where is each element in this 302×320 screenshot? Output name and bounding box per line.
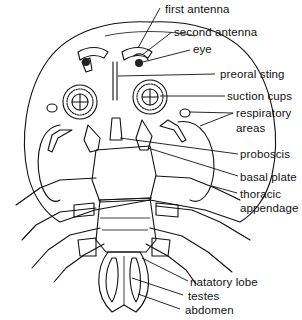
leader-proboscis [120,138,238,154]
respiratory-area-left-small [47,104,57,112]
first-antenna-right [122,48,152,61]
basal-plate [84,120,152,152]
label-natatory-lobe: natatory lobe [190,276,258,288]
label-proboscis: proboscis [240,148,290,160]
leader-respiratory-2 [200,113,233,126]
label-basal-plate: basal plate [240,171,297,183]
label-respiratory-areas-line2: areas [236,122,265,134]
preoral-sting [113,62,117,100]
label-eye: eye [193,43,212,55]
thorax [92,146,156,202]
leader-first-antenna [138,8,160,48]
specimen-drawing [0,0,302,320]
label-preoral-sting: preoral sting [220,68,285,80]
testes [106,258,141,302]
respiratory-area-large [178,122,214,202]
leader-preoral-sting [118,74,215,76]
leader-respiratory-1 [190,112,233,113]
respiratory-area-small [180,109,190,117]
eye-right [135,59,143,67]
eye-left [82,58,90,66]
label-thoracic-appendage-line2: appendage [240,202,298,214]
label-abdomen: abdomen [185,304,234,316]
label-first-antenna: first antenna [165,3,230,15]
label-testes: testes [188,290,219,302]
argulus-diagram: first antenna second antenna eye preoral… [0,0,302,320]
proboscis [110,118,122,140]
label-respiratory-areas-line1: respiratory [236,107,291,119]
leader-second-antenna [142,32,172,55]
suction-cup-left [63,85,97,119]
label-second-antenna: second antenna [174,26,257,38]
label-suction-cups: suction cups [227,90,292,102]
leader-eye [143,50,190,62]
first-antenna-left [78,48,108,73]
label-thoracic-appendage-line1: thoracic [240,188,281,200]
suction-cup-right [133,80,167,114]
